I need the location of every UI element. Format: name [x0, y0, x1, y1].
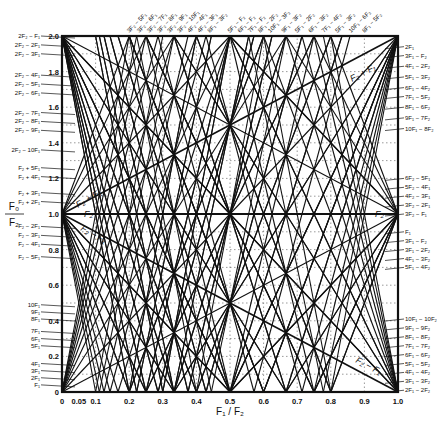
left-product-label: F₂ + 3F₁: [18, 190, 40, 196]
x-tick-label: 0.1: [90, 397, 100, 406]
right-product-label: 6F₁ − 4F₂: [405, 85, 431, 91]
right-product-label: 5F₁ − 4F₂: [405, 264, 431, 270]
y-tick-label: 0.4: [49, 317, 60, 326]
leader-line: [385, 107, 404, 109]
leader-line: [41, 339, 75, 341]
left-product-label: F₂ + 2F₁: [18, 199, 40, 205]
x-tick-label: 0.2: [124, 397, 134, 406]
leader-line: [41, 113, 75, 115]
leader-line: [385, 129, 404, 131]
left-product-label: 2F₂ − 10F₁: [11, 147, 40, 153]
intermodulation-chart: 00.20.40.60.81.01.21.41.61.82.0 00.050.1…: [0, 0, 442, 429]
right-product-label: 3F₁ − 3F₂: [405, 378, 431, 384]
right-product-label: 4F₂ − 3F₁: [405, 193, 430, 199]
x-tick-label: 0.3: [158, 397, 168, 406]
right-product-label: 2F₁ − 2F₂: [405, 387, 431, 393]
x-tick-label: 0.6: [258, 397, 268, 406]
annotation-f2-minus-f1: F₂ − F₁: [354, 355, 383, 377]
left-product-label: F₂ − 4F₁: [18, 241, 40, 247]
left-product-label: 2F₂ − 7F₁: [15, 110, 40, 116]
left-product-label: 2F₂ − 6F₁: [15, 90, 40, 96]
leader-line: [41, 45, 75, 47]
leader-line: [41, 130, 75, 132]
leader-line: [41, 312, 75, 314]
top-product-labels: 3F₂ − 5F₁3F₂ − 6F₁3F₂ − 7F₁3F₂ − 8F₁3F₂ …: [126, 9, 384, 34]
left-product-label: F₂ − 3F₁: [18, 232, 40, 238]
leader-line: [385, 97, 404, 99]
left-product-label: F₁: [34, 382, 40, 388]
left-product-label: 9F₁: [31, 309, 40, 315]
leader-line: [41, 54, 75, 56]
x-tick-label: 0.8: [326, 397, 336, 406]
right-product-label: 7F₁ − 5F₂: [405, 94, 431, 100]
left-product-label: 10F₁: [28, 302, 40, 308]
right-product-label: 6F₂ − 5F₁: [405, 175, 430, 181]
right-product-label: 5F₁ − 3F₂: [405, 74, 431, 80]
x-tick-label: 0: [60, 397, 64, 406]
x-tick-label: 0.9: [359, 397, 369, 406]
x-axis-title: F₁ / F₂: [216, 406, 244, 417]
left-product-label: 2F₁: [31, 375, 40, 381]
leader-line: [41, 385, 75, 387]
leader-line: [41, 346, 75, 348]
right-product-label: 10F₁ − 8F₂: [405, 126, 434, 132]
right-product-label: F₁: [405, 229, 411, 235]
leader-line: [385, 118, 404, 120]
right-product-label: 4F₁ − 4F₂: [405, 369, 431, 375]
left-product-label: 4F₁: [31, 361, 40, 367]
left-product-label: F₂ − 2F₁: [18, 223, 40, 229]
left-product-label: 2F₂ − 9F₁: [15, 127, 40, 133]
leader-line: [385, 328, 404, 330]
left-product-label: F₂ − 5F₁: [18, 254, 40, 260]
right-product-label: 3F₁ − F₂: [405, 238, 428, 244]
left-product-label: 2F₂ − 2F₁: [15, 42, 40, 48]
left-product-label: 2F₂ − 3F₁: [15, 51, 40, 57]
annotation-f2-right: F₂: [375, 209, 384, 219]
left-product-label: 3F₁: [31, 368, 40, 374]
right-product-label: 5F₁ − 5F₂: [405, 361, 431, 367]
y-tick-label: 0.8: [49, 246, 59, 255]
right-product-label: 4F₁ − 2F₂: [405, 63, 431, 69]
x-tick-label: 0.4: [191, 397, 202, 406]
left-product-label: 7F₁: [31, 328, 40, 334]
leader-line: [41, 305, 75, 307]
left-product-label: 5F₁: [31, 343, 40, 349]
right-product-label: 9F₁ − 7F₂: [405, 115, 431, 121]
right-product-label: 10F₁ − 10F₂: [405, 316, 438, 322]
leader-line: [385, 259, 404, 261]
y-tick-label: 1.0: [49, 210, 59, 219]
right-product-label: 8F₁ − 8F₂: [405, 334, 431, 340]
left-product-label: 2F₂ − 5F₁: [15, 81, 40, 87]
right-product-label: 5F₂ − 4F₁: [405, 184, 430, 190]
x-axis-ticks: 00.050.10.20.30.40.50.60.70.80.91.0: [60, 397, 403, 406]
leader-line: [41, 93, 75, 95]
leader-line: [41, 121, 75, 123]
y-tick-label: 0.2: [49, 352, 59, 361]
right-product-label: 4F₁ − 3F₂: [405, 256, 431, 262]
left-product-label: 2F₂ − 4F₁: [15, 72, 40, 78]
y-axis-title-denominator: F₂: [9, 217, 19, 228]
y-axis-ticks: 00.20.40.60.81.01.21.41.61.82.0: [49, 32, 60, 397]
left-product-label: F₂ + 4F₁: [18, 174, 40, 180]
right-product-label: 8F₁ − 6F₂: [405, 104, 431, 110]
y-tick-label: 1.6: [49, 103, 59, 112]
leader-line: [41, 84, 75, 86]
left-product-label: 6F₁: [31, 336, 40, 342]
right-product-label: 9F₁ − 9F₂: [405, 325, 431, 331]
y-tick-label: 1.8: [49, 68, 59, 77]
right-product-label: 6F₁ − 6F₂: [405, 352, 431, 358]
y-tick-label: 0: [55, 388, 59, 397]
right-product-label: 3F₂ − 2F₁: [405, 202, 430, 208]
leader-line: [41, 331, 75, 333]
x-tick-label: 0.5: [225, 397, 235, 406]
right-product-label: 3F₁ − F₂: [405, 53, 428, 59]
y-tick-label: 0.6: [49, 281, 59, 290]
right-product-labels: 2F₁3F₁ − F₂4F₁ − 2F₂5F₁ − 3F₂6F₁ − 4F₂7F…: [385, 44, 438, 394]
right-product-label: 3F₁ − 2F₂: [405, 247, 431, 253]
x-tick-label: 0.7: [292, 397, 302, 406]
right-product-label: 3F₂ − F₁: [405, 211, 427, 217]
left-product-label: 8F₁: [31, 316, 40, 322]
annotation-f2-left: F₂: [84, 209, 93, 219]
x-tick-label: 0.05: [71, 397, 86, 406]
leader-line: [41, 168, 75, 170]
